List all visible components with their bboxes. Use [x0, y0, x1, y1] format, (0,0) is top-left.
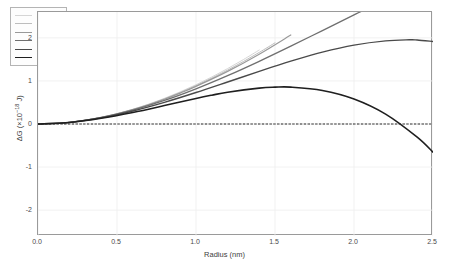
x-tick-label: 1.0 — [190, 238, 200, 245]
x-tick-label: 2.5 — [427, 238, 437, 245]
series-line-4 — [38, 40, 433, 124]
legend-swatch-icon — [15, 40, 32, 41]
series-line-2 — [38, 35, 291, 124]
x-tick-label: 0.5 — [111, 238, 121, 245]
legend-swatch-icon — [15, 15, 32, 16]
y-tick-label: -2 — [10, 206, 32, 213]
series-lines — [38, 12, 433, 152]
y-axis-exponent: −18 — [14, 104, 20, 113]
y-axis-label: ΔG (×10−18 J) — [14, 73, 25, 163]
legend-swatch-icon — [15, 57, 32, 58]
series-line-5 — [38, 87, 433, 152]
legend-swatch-icon — [15, 23, 32, 24]
x-axis-label: Radius (nm) — [0, 250, 449, 259]
legend-swatch-icon — [15, 49, 32, 50]
nucleation-free-energy-chart: S = 0.5S = 0.75S = 1S = 1.5S = 2S = 3 0.… — [0, 0, 449, 270]
series-line-1 — [38, 43, 275, 124]
x-tick-label: 2.0 — [348, 238, 358, 245]
plot-svg — [38, 12, 433, 236]
x-tick-label: 1.5 — [269, 238, 279, 245]
series-line-0 — [38, 50, 259, 124]
plot-area — [37, 11, 432, 235]
y-tick-label: 2 — [10, 33, 32, 40]
x-tick-label: 0.0 — [32, 238, 42, 245]
y-tick-label: -1 — [10, 163, 32, 170]
